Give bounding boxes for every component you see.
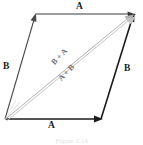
vector-label-a-bottom: A bbox=[48, 121, 55, 131]
vector-b-left bbox=[5, 13, 36, 119]
vector-label-b-left: B bbox=[3, 62, 9, 72]
figure-container: A A B B B + A A + B Figure 2.14 bbox=[0, 0, 143, 145]
vector-a-top bbox=[36, 11, 136, 17]
vector-label-a-top: A bbox=[76, 2, 83, 12]
arrowhead-b-left-icon bbox=[31, 13, 37, 22]
figure-caption: Figure 2.14 bbox=[0, 138, 143, 145]
vector-label-b-right: B bbox=[124, 64, 130, 74]
